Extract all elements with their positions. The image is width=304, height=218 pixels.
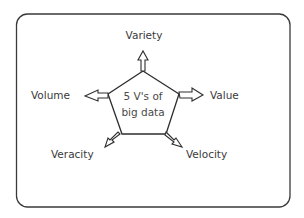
five-vs-diagram: 5 V's of big data Variety Volume Value V…: [0, 0, 304, 218]
label-value: Value: [210, 89, 239, 101]
arrow-down-left-icon: [105, 132, 120, 147]
arrow-left-icon: [85, 90, 108, 101]
center-label-line2: big data: [121, 106, 164, 118]
arrow-down-right-icon: [165, 132, 182, 147]
center-label-line1: 5 V's of: [123, 90, 162, 102]
label-velocity: Velocity: [186, 148, 227, 160]
label-veracity: Veracity: [51, 148, 94, 160]
arrow-up-icon: [138, 51, 148, 71]
label-variety: Variety: [126, 29, 163, 41]
label-volume: Volume: [31, 89, 70, 101]
arrow-right-icon: [179, 88, 203, 101]
center-pentagon: [108, 71, 179, 134]
